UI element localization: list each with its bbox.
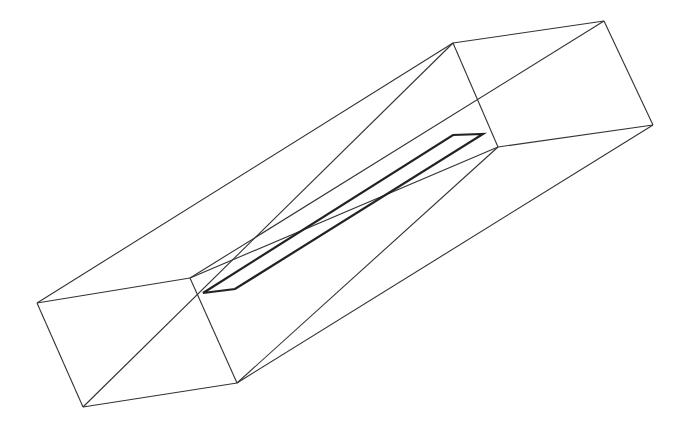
inner-long-edge-top	[190, 147, 498, 278]
back-face-edge	[604, 21, 653, 125]
back-face-edge	[453, 21, 604, 43]
front-face-edge	[37, 278, 190, 303]
top-right-long-edge	[190, 21, 604, 278]
top-left-long-edge	[37, 43, 453, 303]
box-edges	[37, 21, 653, 407]
back-face-edge	[453, 43, 498, 147]
bottom-right-long-edge	[237, 125, 653, 383]
front-face-edge	[190, 278, 237, 383]
diagram-canvas	[0, 0, 678, 427]
back-face-edge	[498, 125, 653, 147]
wireframe-box-diagram	[0, 0, 678, 427]
front-face-edge	[83, 383, 237, 407]
hidden-long-edge	[83, 43, 453, 407]
front-face-edge	[37, 303, 83, 407]
bottom-long-edge	[237, 147, 498, 383]
